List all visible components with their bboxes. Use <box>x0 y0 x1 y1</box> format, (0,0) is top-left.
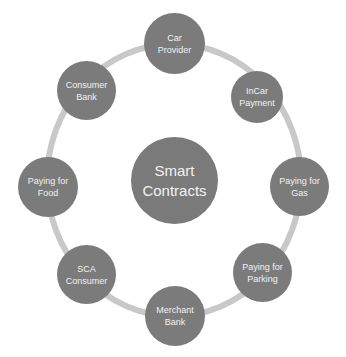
node-sca-consumer: SCAConsumer <box>57 245 116 304</box>
node-label: Paying for <box>242 262 283 272</box>
center-node-smart-contracts: SmartContracts <box>131 137 218 224</box>
node-label: Paying for <box>28 176 69 186</box>
node-incar-payment: InCarPayment <box>231 71 283 123</box>
node-paying-for-parking: Paying forParking <box>233 243 292 302</box>
node-label: Consumer <box>66 80 108 90</box>
node-label: Bank <box>165 317 186 327</box>
node-label: Paying for <box>279 176 320 186</box>
node-label: Car <box>167 33 182 43</box>
node-label: SCA <box>77 264 96 274</box>
node-label: Payment <box>239 98 275 108</box>
node-label: Provider <box>158 45 192 55</box>
node-label: Food <box>38 188 59 198</box>
node-label: Parking <box>247 274 278 284</box>
node-label: InCar <box>246 86 268 96</box>
node-consumer-bank: ConsumerBank <box>57 61 116 120</box>
node-label: Gas <box>291 188 308 198</box>
node-paying-for-gas: Paying forGas <box>270 157 329 216</box>
node-label: Merchant <box>156 305 194 315</box>
node-merchant-bank: MerchantBank <box>145 286 205 346</box>
node-car-provider: CarProvider <box>144 13 205 74</box>
node-label: Bank <box>76 92 97 102</box>
node-paying-for-food: Paying forFood <box>18 157 78 217</box>
center-label-line1: Smart <box>154 162 194 179</box>
center-label-line2: Contracts <box>142 182 206 199</box>
node-label: Consumer <box>66 276 108 286</box>
